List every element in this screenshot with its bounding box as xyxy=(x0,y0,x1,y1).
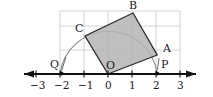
tilted-square-OABC xyxy=(85,13,157,74)
point-marker-Q xyxy=(60,57,67,76)
axis-arrow-left xyxy=(24,70,34,77)
axis-tick-label-1: 1 xyxy=(129,80,136,91)
axis-tick-label--3: −3 xyxy=(30,80,45,91)
axis-tick-label-3: 3 xyxy=(177,80,184,91)
axis-tick-label--2: −2 xyxy=(54,80,69,91)
point-label-O: O xyxy=(106,60,115,71)
point-label-P: P xyxy=(161,59,168,70)
point-label-A: A xyxy=(163,43,171,54)
axis-tick-label-0: 0 xyxy=(105,80,112,91)
axis-arrow-right xyxy=(186,70,196,77)
point-label-C: C xyxy=(75,23,83,34)
axis-tick-label-2: 2 xyxy=(153,80,160,91)
geometry-figure: B C A O Q P −3 −2 −1 0 1 2 3 xyxy=(0,0,213,97)
point-label-B: B xyxy=(129,0,137,11)
point-label-Q: Q xyxy=(50,59,59,70)
axis-tick-label--1: −1 xyxy=(78,80,93,91)
